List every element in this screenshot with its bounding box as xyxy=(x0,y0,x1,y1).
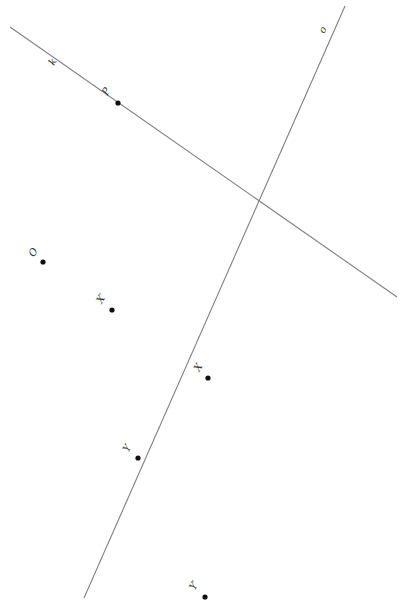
line-label-k: k xyxy=(46,56,59,67)
diagram-canvas: koPOX′XYY′ xyxy=(0,0,401,612)
point-X-prime xyxy=(109,307,114,312)
point-label-X-prime: X′ xyxy=(93,291,108,306)
point-label-Y-prime: Y′ xyxy=(187,578,201,592)
point-X xyxy=(205,375,210,380)
point-label-O: O xyxy=(26,246,40,259)
point-P xyxy=(115,100,120,105)
point-Y-prime xyxy=(202,594,207,599)
points-layer xyxy=(40,100,210,599)
point-O xyxy=(40,259,45,264)
line-k xyxy=(10,27,397,297)
point-label-Y: Y xyxy=(121,441,135,453)
labels-layer: koPOX′XYY′ xyxy=(26,24,329,592)
point-Y xyxy=(135,455,140,460)
line-o xyxy=(84,6,345,598)
line-label-o: o xyxy=(316,24,329,35)
point-label-X: X xyxy=(191,361,205,374)
point-label-P: P xyxy=(99,85,113,97)
lines-layer xyxy=(10,6,397,598)
